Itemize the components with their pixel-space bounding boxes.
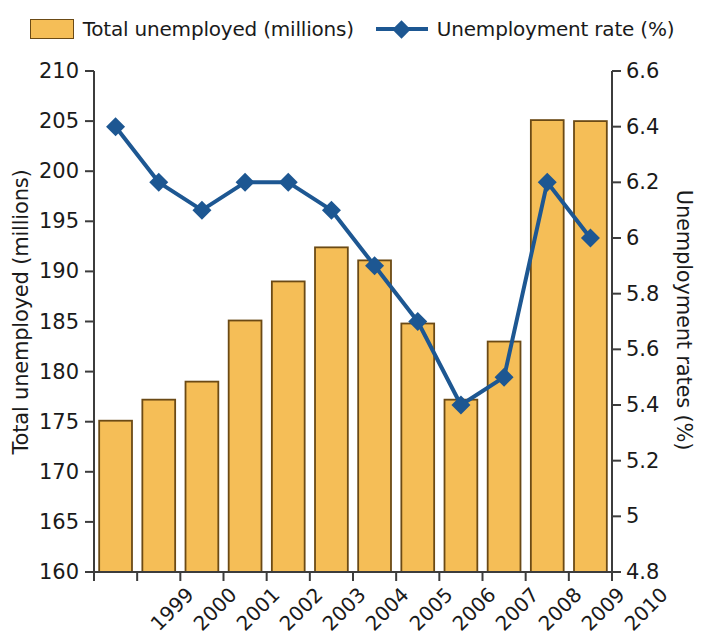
- right-tick-label: 6.6: [626, 61, 682, 82]
- right-tick-label: 4.8: [626, 562, 682, 583]
- bar-2003: [272, 281, 305, 572]
- right-tick-label: 6.4: [626, 117, 682, 138]
- left-tick-label: 190: [23, 261, 79, 282]
- left-tick-label: 200: [23, 161, 79, 182]
- right-tick-label: 5.2: [626, 451, 682, 472]
- bar-2010: [574, 121, 607, 572]
- bar-2005: [358, 260, 391, 572]
- right-tick-label: 5: [626, 506, 682, 527]
- left-tick-label: 185: [23, 312, 79, 333]
- bar-series: [99, 120, 607, 572]
- bar-2007: [445, 400, 478, 572]
- right-tick-label: 5.6: [626, 339, 682, 360]
- right-tick-label: 6.2: [626, 172, 682, 193]
- bar-2000: [142, 400, 175, 572]
- line-series-markers: [106, 117, 600, 414]
- left-tick-label: 195: [23, 211, 79, 232]
- right-tick-label: 6: [626, 228, 682, 249]
- left-tick-label: 170: [23, 462, 79, 483]
- bar-2001: [186, 382, 219, 572]
- bar-2004: [315, 247, 348, 572]
- left-tick-label: 165: [23, 512, 79, 533]
- left-tick-label: 175: [23, 412, 79, 433]
- right-tick-label: 5.4: [626, 395, 682, 416]
- left-tick-label: 160: [23, 562, 79, 583]
- bar-2006: [401, 324, 434, 573]
- bar-1999: [99, 421, 132, 572]
- left-tick-label: 205: [23, 111, 79, 132]
- left-tick-label: 180: [23, 362, 79, 383]
- bar-2002: [229, 321, 262, 573]
- left-tick-label: 210: [23, 61, 79, 82]
- right-tick-label: 5.8: [626, 284, 682, 305]
